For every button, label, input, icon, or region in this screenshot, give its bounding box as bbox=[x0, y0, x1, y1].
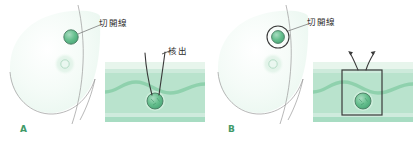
skin-layer bbox=[105, 62, 205, 69]
subcutaneous-layer bbox=[105, 69, 205, 73]
arrow-head-right bbox=[371, 51, 376, 55]
tumor-marker bbox=[272, 31, 285, 44]
incision-label-a: 切開線 bbox=[99, 16, 128, 28]
deep-layer bbox=[105, 117, 205, 122]
cross-section-b bbox=[313, 51, 413, 122]
panel-b: 切開線 B bbox=[208, 0, 417, 148]
panel-a: 切開線 核出 A bbox=[0, 0, 209, 148]
tumor-marker bbox=[64, 30, 78, 44]
breast-diagram-a bbox=[10, 5, 100, 124]
breast-diagram-b bbox=[218, 5, 308, 124]
cross-section-a bbox=[105, 50, 205, 122]
arrow-head-left bbox=[348, 51, 353, 55]
deep-boundary-layer bbox=[105, 113, 205, 117]
deep-layer bbox=[313, 117, 413, 122]
tumor-cross-section bbox=[147, 93, 163, 109]
procedure-label-a: 核出 bbox=[168, 44, 187, 56]
tumor-cross-section bbox=[355, 93, 371, 109]
skin-layer bbox=[313, 62, 413, 69]
incision-label-b: 切開線 bbox=[307, 15, 336, 27]
nipple bbox=[61, 60, 69, 68]
panel-letter-b: B bbox=[228, 124, 235, 134]
panel-letter-a: A bbox=[20, 124, 27, 134]
nipple bbox=[269, 60, 277, 68]
medical-illustration-figure: 切開線 核出 A bbox=[0, 0, 417, 148]
